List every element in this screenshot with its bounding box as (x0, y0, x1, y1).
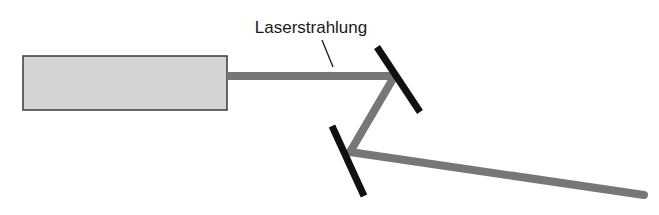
laser-reflection-diagram: Laserstrahlung (0, 0, 659, 215)
laser-source (23, 56, 227, 110)
beam-label: Laserstrahlung (255, 18, 367, 37)
